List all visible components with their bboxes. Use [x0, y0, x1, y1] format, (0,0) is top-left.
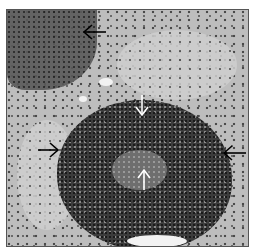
annotation-arrows	[0, 0, 257, 250]
left-arrow-icon	[38, 143, 58, 157]
center-down-arrow-icon	[136, 95, 148, 115]
center-up-arrow-icon	[138, 170, 150, 190]
top-left-arrow-icon	[84, 25, 106, 39]
right-arrow-icon	[224, 146, 246, 160]
